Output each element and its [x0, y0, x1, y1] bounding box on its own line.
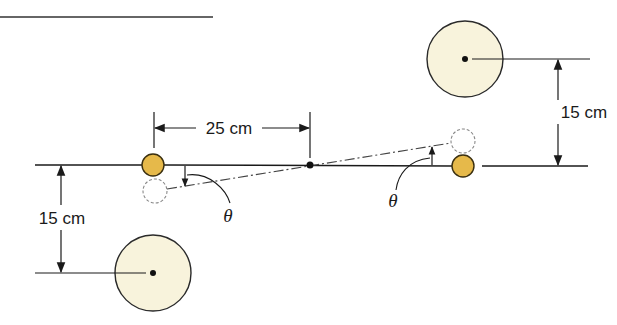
large-sphere-top-right-center [462, 56, 468, 62]
dimension-25cm: 25 cm [154, 112, 310, 158]
dimension-15cm-right: 15 cm [558, 60, 607, 165]
dimension-15cm-left: 15 cm [39, 166, 85, 272]
label-rod-length: 25 cm [206, 119, 252, 138]
displaced-sphere-right [451, 129, 475, 153]
label-separation-left: 15 cm [39, 209, 85, 228]
label-theta-right: θ [388, 190, 397, 211]
label-theta-left: θ [223, 205, 232, 226]
label-separation-right: 15 cm [561, 103, 607, 122]
pivot-point [307, 162, 314, 169]
small-sphere-right [452, 155, 474, 177]
cavendish-diagram: 25 cm 15 cm 15 cm θ θ [0, 0, 617, 325]
displaced-sphere-left [143, 179, 167, 203]
angle-indicator-left: θ [185, 166, 233, 226]
large-sphere-bottom-left-center [150, 270, 156, 276]
angle-indicator-right: θ [388, 147, 432, 211]
small-sphere-left [142, 154, 164, 176]
